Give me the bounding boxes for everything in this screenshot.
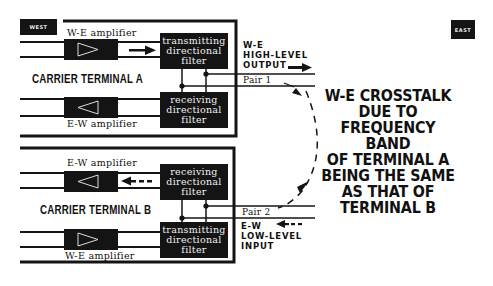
terminal-b-ew-amplifier-label: E-W amplifier xyxy=(67,157,137,168)
terminal-b-we-amplifier xyxy=(64,229,118,250)
filter-line: filter xyxy=(181,115,206,125)
terminal-b-receiving-filter: receiving directional filter xyxy=(160,164,228,200)
terminal-b-transmitting-filter: transmitting directional filter xyxy=(160,222,228,258)
terminal-b-title: CARRIER TERMINAL B xyxy=(40,203,151,217)
east-label: EAST xyxy=(451,20,475,39)
filter-line: filter xyxy=(181,187,206,197)
amplifier-right-icon xyxy=(64,229,118,250)
terminal-a-transmitting-filter: transmitting directional filter xyxy=(160,33,228,69)
terminal-a-ew-amplifier-label: E-W amplifier xyxy=(67,118,137,129)
crosstalk-caption: W-E CROSSTALK DUE TO FREQUENCY BAND OF T… xyxy=(320,88,456,216)
terminal-a-ew-amplifier xyxy=(64,97,118,118)
terminal-b-we-amplifier-label: W-E amplifier xyxy=(65,250,135,261)
high-level-output-label: W-E HIGH-LEVEL OUTPUT xyxy=(243,40,308,70)
amplifier-left-icon xyxy=(64,171,118,192)
terminal-a-we-amplifier xyxy=(64,39,118,60)
terminal-a-title: CARRIER TERMINAL A xyxy=(32,72,143,86)
terminal-a-receiving-filter: receiving directional filter xyxy=(160,92,228,128)
pair-2-label: Pair 2 xyxy=(242,207,271,217)
filter-line: filter xyxy=(181,245,206,255)
pair-1-label: Pair 1 xyxy=(243,75,272,85)
amplifier-right-icon xyxy=(64,39,118,60)
terminal-a-we-amplifier-label: W-E amplifier xyxy=(67,27,137,38)
amplifier-left-icon xyxy=(64,97,118,118)
terminal-b-ew-amplifier xyxy=(64,171,118,192)
low-level-input-label: E-W LOW-LEVEL INPUT xyxy=(241,221,302,251)
west-label: WEST xyxy=(20,19,57,35)
filter-line: filter xyxy=(181,56,206,66)
